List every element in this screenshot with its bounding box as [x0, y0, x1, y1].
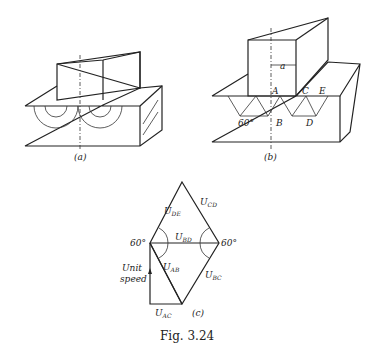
panel-b-drawing — [212, 18, 360, 150]
u-bc: UBC — [205, 270, 222, 281]
u-ac: UAC — [155, 308, 172, 319]
angle-b: 60° — [238, 118, 254, 128]
u-ab: UAB — [163, 262, 180, 273]
figure-caption: Fig. 3.24 — [160, 329, 215, 343]
angle-left: 60° — [130, 238, 146, 248]
unit-label: Unit — [122, 263, 142, 273]
point-d: D — [305, 118, 313, 128]
dim-a: a — [280, 61, 285, 71]
point-a: A — [271, 86, 279, 96]
u-cd: UCD — [200, 197, 217, 208]
point-e: E — [318, 86, 326, 96]
speed-label: speed — [120, 274, 147, 284]
panel-a-label: (a) — [74, 152, 87, 162]
u-bd: UBD — [175, 232, 192, 243]
figure: (a) a A B C D E 60° (b) UDE UCD UBD UAB … — [0, 0, 379, 350]
panel-c-label: (c) — [192, 308, 205, 318]
u-de: UDE — [164, 206, 181, 217]
panel-b-label: (b) — [264, 152, 277, 162]
point-b: B — [275, 118, 283, 128]
panel-a-drawing — [25, 52, 162, 150]
point-c: C — [302, 86, 309, 96]
angle-right: 60° — [221, 238, 237, 248]
